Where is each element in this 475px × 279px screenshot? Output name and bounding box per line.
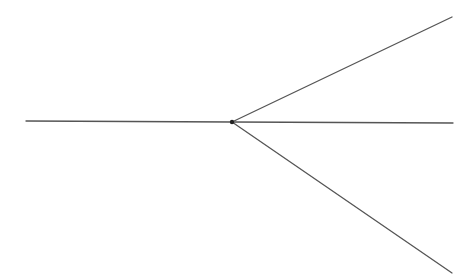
middle-ray <box>232 122 453 123</box>
upper-ray <box>232 17 452 122</box>
lower-ray <box>232 122 452 273</box>
left-ray <box>26 121 232 122</box>
vertex-point <box>230 120 234 124</box>
ray-segments <box>26 17 453 273</box>
ray-diagram <box>0 0 475 279</box>
